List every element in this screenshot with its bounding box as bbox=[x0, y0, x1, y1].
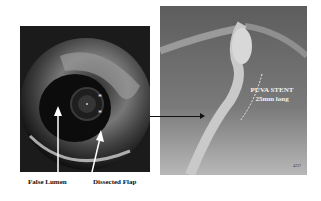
marker-asterisk: * bbox=[98, 93, 102, 102]
connector-arrow-head bbox=[200, 113, 205, 119]
ivus-image: * * bbox=[20, 26, 150, 172]
stent-label-line2: 25mm long bbox=[243, 95, 301, 104]
marker-asterisk: * bbox=[98, 109, 102, 118]
image-id: 4237 bbox=[293, 163, 301, 168]
connector-arrow-line bbox=[150, 116, 202, 117]
dissected-flap-caption: Dissected Flap bbox=[93, 178, 136, 186]
stent-label: PUVA STENT 25mm long bbox=[243, 86, 301, 104]
stent-label-line1: PUVA STENT bbox=[243, 86, 301, 95]
false-lumen-caption: False Lumen bbox=[28, 178, 67, 186]
ivus-graphic: * * bbox=[20, 26, 150, 172]
